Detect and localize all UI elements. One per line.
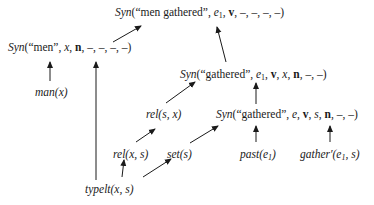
- edge-typelt-to-relxs: [122, 160, 124, 177]
- edge-men-to-root: [113, 26, 141, 42]
- syn-function: Syn: [216, 108, 233, 120]
- close-args: , s): [345, 148, 359, 160]
- edge-gathered-e1-to-root: [217, 27, 226, 62]
- syn-function: Syn: [180, 68, 197, 80]
- past-function: past(e: [240, 148, 268, 160]
- node-args: (“men”,: [25, 41, 65, 53]
- edge-layer: [0, 0, 374, 205]
- node-typelt-x-s: typelt(x, s): [85, 183, 134, 196]
- node-gather-prime: gather′(e1, s): [300, 148, 360, 161]
- node-tail: , –, –, –, –): [234, 6, 284, 18]
- node-rel-s-x: rel(s, x): [146, 108, 181, 121]
- close-paren: ): [272, 148, 276, 160]
- syn-function: Syn: [8, 41, 25, 53]
- node-args: (“men gathered”,: [132, 6, 214, 18]
- node-past-e1: past(e1): [240, 148, 276, 161]
- edge-relsx-to-gathered-e1: [166, 82, 195, 103]
- node-man-x: man(x): [35, 86, 68, 99]
- node-args: (“gathered”,: [233, 108, 292, 120]
- node-args: (“gathered”,: [197, 68, 256, 80]
- node-tail: , –, –, –, –): [81, 41, 131, 53]
- edge-sets-to-gathered-e: [190, 126, 218, 143]
- node-root-syn-men-gathered: Syn(“men gathered”, e1, v, –, –, –, –): [115, 6, 284, 19]
- syn-function: Syn: [115, 6, 132, 18]
- node-syn-gathered-e1: Syn(“gathered”, e1, v, x, n, –, –): [180, 68, 326, 81]
- event-subscript: 1: [219, 11, 223, 20]
- node-syn-gathered-e: Syn(“gathered”, e, v, s, n, –, –): [216, 108, 358, 121]
- node-set-s: set(s): [167, 148, 192, 161]
- edge-typelt-to-sets: [143, 159, 171, 177]
- edge-relxs-to-relsx: [136, 129, 155, 142]
- node-tail: , –, –): [331, 108, 358, 120]
- node-tail: , –, –): [300, 68, 327, 80]
- node-syn-men: Syn(“men”, x, n, –, –, –, –): [8, 41, 131, 54]
- gather-function: gather′(e: [300, 148, 341, 160]
- node-rel-x-s: rel(x, s): [113, 148, 148, 161]
